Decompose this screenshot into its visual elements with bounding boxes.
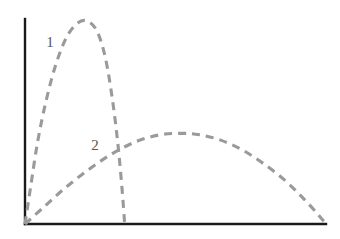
curve-label-1: 1 <box>46 34 54 50</box>
chart-figure: 1 2 <box>0 0 340 239</box>
curve-label-2: 2 <box>91 137 99 153</box>
plot-area: 1 2 <box>0 0 340 239</box>
